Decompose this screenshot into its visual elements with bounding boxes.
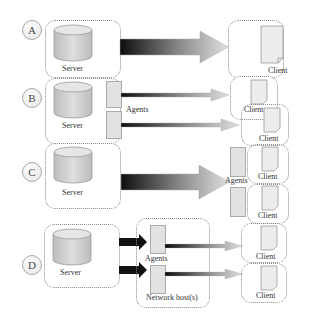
client-label: Client <box>259 134 279 143</box>
client-label: Client <box>268 66 288 75</box>
transfer-arrow-icon <box>121 88 231 102</box>
agents-label: Agents <box>126 105 149 114</box>
client-label: Client <box>256 252 276 261</box>
row-label-b: B <box>22 88 42 108</box>
server-label: Server <box>62 121 83 130</box>
document-icon <box>262 186 280 212</box>
row-label-a: A <box>22 20 42 40</box>
document-icon <box>261 226 279 252</box>
network-host-label: Network host(s) <box>146 293 198 302</box>
agent-block <box>150 225 166 254</box>
agent-block <box>150 265 166 294</box>
agents-label: Agents <box>225 176 248 185</box>
transfer-arrow-icon <box>121 164 231 200</box>
client-label: Client <box>256 291 276 300</box>
document-icon <box>251 80 269 106</box>
agent-block <box>106 111 122 139</box>
document-icon <box>261 26 285 64</box>
server-label: Server <box>60 268 81 277</box>
transfer-arrow-icon <box>121 118 241 132</box>
client-label: Client <box>258 172 278 181</box>
server-label: Server <box>62 188 83 197</box>
document-icon <box>262 147 280 173</box>
transfer-arrow-icon <box>120 29 230 65</box>
server-label: Server <box>62 64 83 73</box>
agents-label: Agents <box>145 254 168 263</box>
row-label-c: C <box>22 162 42 182</box>
transfer-arrow-icon <box>165 241 245 251</box>
agent-block <box>230 147 246 177</box>
database-cylinder-icon <box>52 228 92 266</box>
client-label: Client <box>258 211 278 220</box>
agent-block <box>106 81 122 108</box>
document-icon <box>264 108 282 134</box>
database-cylinder-icon <box>53 146 93 184</box>
document-icon <box>261 266 279 292</box>
agent-block <box>230 187 246 217</box>
transfer-arrow-icon <box>165 269 245 279</box>
row-label-d: D <box>22 255 42 275</box>
database-cylinder-icon <box>53 81 93 119</box>
database-cylinder-icon <box>53 24 93 62</box>
